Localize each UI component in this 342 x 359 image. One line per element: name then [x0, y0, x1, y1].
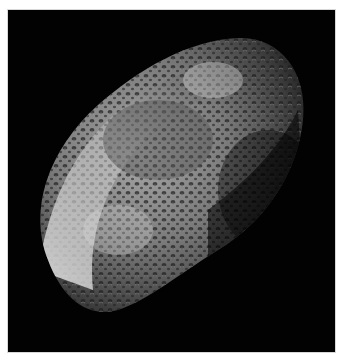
moon-photo — [8, 10, 336, 353]
photo-frame — [7, 9, 336, 353]
